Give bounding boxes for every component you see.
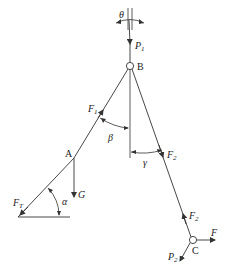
f2-lower-label: F2 — [188, 210, 199, 223]
point-c-label: C — [192, 245, 199, 256]
theta-reference-lines — [128, 8, 132, 30]
point-b — [126, 62, 133, 69]
p2-arrow — [180, 243, 190, 261]
point-b-label: B — [137, 61, 144, 72]
p2-label: P2 — [167, 251, 178, 264]
force-diagram: θ P1 B F1 β γ F2 F2 C F P2 A G FT — [0, 0, 232, 277]
ft-label: FT — [12, 197, 24, 210]
f-label: F — [210, 227, 218, 238]
alpha-label: α — [62, 196, 68, 207]
beta-label: β — [107, 132, 113, 143]
f2-upper-label: F2 — [166, 149, 177, 162]
p1-force-line — [129, 20, 130, 44]
p1-label: P1 — [134, 40, 145, 53]
f1-arrow — [98, 110, 103, 118]
f2-lower-arrow — [183, 214, 186, 224]
f1-label: F1 — [87, 103, 98, 116]
theta-label: θ — [119, 9, 124, 20]
point-c — [189, 236, 196, 243]
theta-arrow-right — [139, 19, 144, 24]
gamma-label: γ — [143, 157, 148, 168]
g-label: G — [78, 189, 85, 200]
point-a-label: A — [65, 148, 73, 159]
